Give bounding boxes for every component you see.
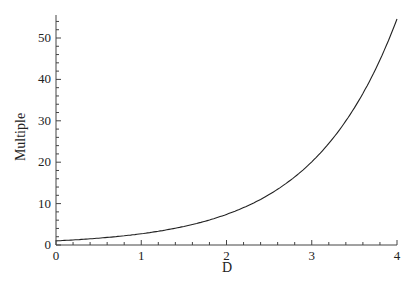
x-tick-label: 4 — [394, 248, 401, 263]
y-tick-label: 30 — [38, 113, 51, 128]
y-tick-label: 40 — [38, 71, 51, 86]
x-axis-label: D — [222, 260, 232, 275]
x-tick-label: 1 — [138, 248, 145, 263]
x-tick-label: 0 — [53, 248, 60, 263]
y-axis: 01020304050 — [38, 15, 61, 252]
data-line — [56, 19, 397, 241]
x-tick-label: 3 — [309, 248, 316, 263]
y-tick-label: 50 — [38, 30, 51, 45]
series-line — [56, 19, 397, 241]
y-tick-label: 10 — [38, 196, 51, 211]
y-axis-label: Multiple — [13, 113, 28, 161]
chart: 01020304050 01234 D Multiple — [0, 0, 413, 291]
y-tick-label: 0 — [45, 237, 52, 252]
y-tick-label: 20 — [38, 154, 51, 169]
